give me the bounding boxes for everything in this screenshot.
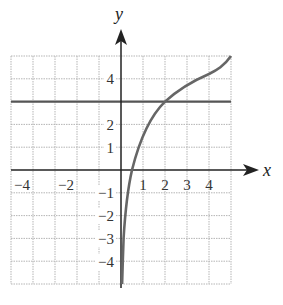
graph: x y −4 −2 1 2 3 4 4 2 1 −1 −2 −3 −4	[0, 0, 283, 305]
x-axis-label: x	[262, 160, 271, 180]
y-tick-neg3: −3	[98, 231, 114, 247]
x-tick-1: 1	[139, 177, 147, 193]
y-tick-neg2: −2	[98, 208, 114, 224]
y-tick-neg1: −1	[98, 185, 114, 201]
y-tick-4: 4	[107, 71, 115, 87]
y-tick-1: 1	[107, 140, 115, 156]
x-tick-neg2: −2	[58, 177, 74, 193]
x-tick-4: 4	[205, 177, 213, 193]
x-tick-3: 3	[183, 177, 191, 193]
x-tick-2: 2	[161, 177, 169, 193]
y-tick-2: 2	[107, 117, 115, 133]
y-axis	[115, 29, 127, 288]
x-axis	[11, 164, 259, 176]
y-axis-label: y	[113, 4, 123, 24]
x-tick-neg4: −4	[14, 177, 30, 193]
y-tick-neg4: −4	[98, 254, 114, 270]
